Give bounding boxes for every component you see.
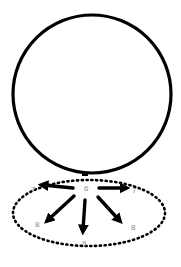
arrow-left	[43, 185, 73, 188]
arrow-down-right	[98, 197, 119, 220]
label-down-right: 8	[131, 224, 135, 232]
label-down-left: 8	[35, 221, 39, 229]
label-right: 7	[132, 187, 136, 195]
label-left: 7	[31, 186, 35, 194]
base-ellipse	[13, 180, 165, 246]
ball-circle	[13, 15, 171, 173]
center-label: 6	[84, 185, 88, 193]
label-down: 9	[82, 240, 86, 248]
arrow-down	[83, 200, 85, 230]
contact-point	[82, 172, 88, 176]
diagram-canvas	[0, 0, 181, 267]
arrow-down-left	[48, 196, 74, 220]
